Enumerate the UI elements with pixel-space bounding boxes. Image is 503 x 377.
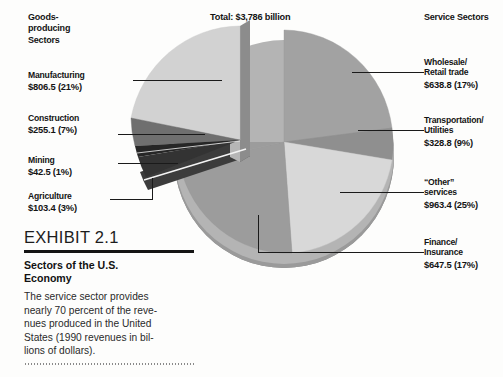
exhibit-dotted-rule xyxy=(24,363,194,365)
exhibit-figure: Total: $3,786 billion Goods- producing S… xyxy=(0,0,503,377)
label-other-services-value: $963.4 (25%) xyxy=(424,199,478,210)
goods-cut-face-outer xyxy=(240,20,250,162)
exhibit-subtitle: Sectors of the U.S. Economy xyxy=(24,259,194,287)
label-transportation-utilities-name2: Utilities xyxy=(424,125,484,135)
service-sectors-header: Service Sectors xyxy=(424,12,503,23)
slice-wholesale-retail xyxy=(284,30,392,142)
label-agriculture: Agriculture $103.4 (3%) xyxy=(28,191,77,214)
label-finance-insurance-name1: Finance/ xyxy=(424,237,478,247)
label-wholesale-retail-name1: Wholesale/ xyxy=(424,57,478,67)
exhibit-body-line3: nues produced in the United xyxy=(24,318,151,329)
label-manufacturing-value: $806.5 (21%) xyxy=(28,81,85,92)
label-mining-name: Mining xyxy=(28,155,72,165)
exhibit-body-line5: lions of dollars). xyxy=(24,345,95,356)
label-construction: Construction $255.1 (7%) xyxy=(28,113,79,136)
label-finance-insurance-name2: Insurance xyxy=(424,247,478,257)
goods-header-line2: producing xyxy=(28,23,70,33)
label-transportation-utilities-name1: Transportation/ xyxy=(424,115,484,125)
label-mining: Mining $42.5 (1%) xyxy=(28,155,72,178)
exhibit-caption: EXHIBIT 2.1 Sectors of the U.S. Economy … xyxy=(24,228,194,365)
label-manufacturing: Manufacturing $806.5 (21%) xyxy=(28,70,85,93)
exhibit-rule xyxy=(24,250,194,253)
label-construction-value: $255.1 (7%) xyxy=(28,124,79,135)
label-mining-value: $42.5 (1%) xyxy=(28,166,72,177)
label-construction-name: Construction xyxy=(28,113,79,123)
label-agriculture-value: $103.4 (3%) xyxy=(28,202,77,213)
exhibit-body: The service sector provides nearly 70 pe… xyxy=(24,290,194,357)
label-other-services-name2: services xyxy=(424,187,478,197)
goods-producing-header: Goods- producing Sectors xyxy=(28,12,108,46)
exhibit-body-line4: States (1990 revenues in bil- xyxy=(24,332,154,343)
label-wholesale-retail-value: $638.8 (17%) xyxy=(424,79,478,90)
label-finance-insurance-value: $647.5 (17%) xyxy=(424,259,478,270)
total-label: Total: $3,786 billion xyxy=(210,12,290,22)
exhibit-subtitle-line2: Economy xyxy=(24,272,72,284)
exhibit-subtitle-line1: Sectors of the U.S. xyxy=(24,259,118,271)
goods-header-line3: Sectors xyxy=(28,35,60,45)
label-manufacturing-name: Manufacturing xyxy=(28,70,85,80)
label-other-services: “Other” services $963.4 (25%) xyxy=(424,177,478,210)
label-finance-insurance: Finance/ Insurance $647.5 (17%) xyxy=(424,237,478,270)
exhibit-number: EXHIBIT 2.1 xyxy=(24,228,194,247)
label-transportation-utilities-value: $328.8 (9%) xyxy=(424,137,484,148)
label-wholesale-retail-name2: Retail trade xyxy=(424,67,478,77)
label-transportation-utilities: Transportation/ Utilities $328.8 (9%) xyxy=(424,115,484,148)
exhibit-body-line1: The service sector provides xyxy=(24,291,149,302)
label-agriculture-name: Agriculture xyxy=(28,191,77,201)
slice-other-services xyxy=(284,142,392,253)
label-other-services-name1: “Other” xyxy=(424,177,478,187)
goods-header-line1: Goods- xyxy=(28,12,58,22)
label-wholesale-retail: Wholesale/ Retail trade $638.8 (17%) xyxy=(424,57,478,90)
exhibit-body-line2: nearly 70 percent of the reve- xyxy=(24,305,157,316)
